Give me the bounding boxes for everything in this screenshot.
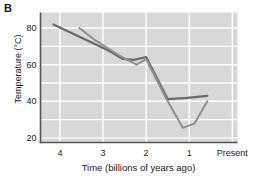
plot-area bbox=[0, 0, 257, 179]
chart-figure: B Temperature (°C) Time (billions of yea… bbox=[0, 0, 257, 179]
